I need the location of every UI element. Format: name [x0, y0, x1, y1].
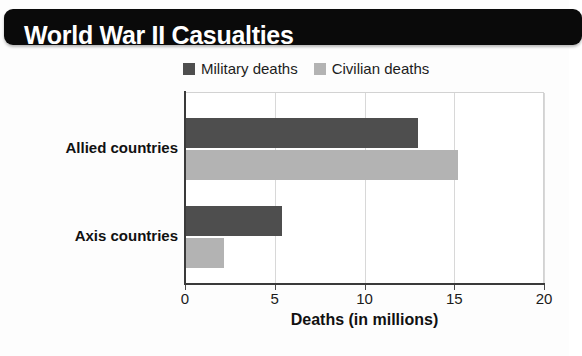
plot-area: [185, 92, 544, 283]
legend-label-civilian-deaths: Civilian deaths: [332, 60, 430, 77]
legend-item-civilian-deaths: Civilian deaths: [314, 60, 430, 77]
x-tick-label: 20: [536, 290, 553, 307]
gridline: [544, 93, 545, 283]
y-axis-line: [184, 91, 186, 284]
x-tick-label: 5: [271, 290, 279, 307]
bar: [185, 238, 224, 268]
legend-label-military-deaths: Military deaths: [201, 60, 298, 77]
x-tick-label: 10: [356, 290, 373, 307]
bar: [185, 206, 282, 236]
bar: [185, 118, 418, 148]
category-label-allied-countries: Allied countries: [0, 139, 178, 156]
x-axis-title: Deaths (in millions): [185, 311, 544, 329]
bar: [185, 150, 458, 180]
x-tick-label: 0: [181, 290, 189, 307]
legend-swatch-military-deaths: [183, 63, 195, 75]
legend-swatch-civilian-deaths: [314, 63, 326, 75]
chart-legend: Military deaths Civilian deaths: [183, 60, 429, 77]
category-label-axis-countries: Axis countries: [0, 227, 178, 244]
x-tick-label: 15: [446, 290, 463, 307]
legend-item-military-deaths: Military deaths: [183, 60, 298, 77]
title-banner: World War II Casualties: [4, 9, 582, 45]
chart-title: World War II Casualties: [24, 21, 294, 50]
gridline: [454, 93, 455, 283]
